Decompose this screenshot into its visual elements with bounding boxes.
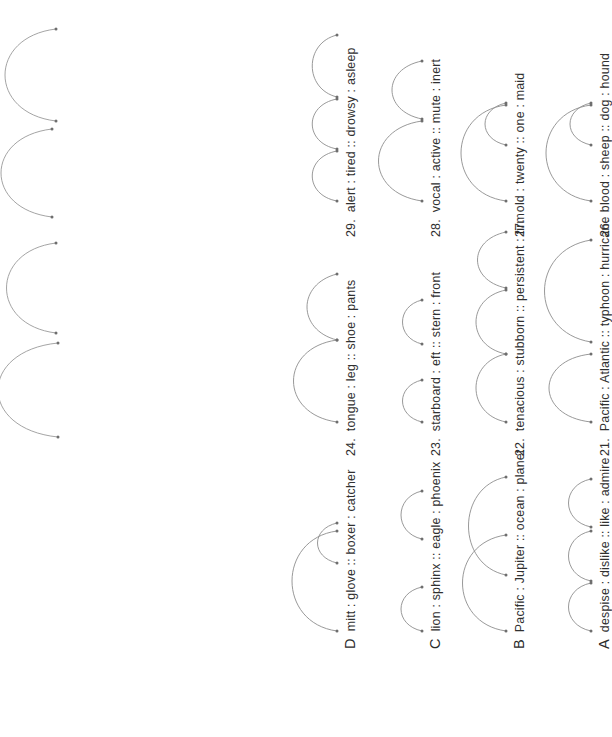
analogy-arcs-22 — [460, 176, 514, 426]
analogy-label-24: 24. — [344, 438, 358, 456]
analogy-text-D: mitt : glove :: boxer : catcher — [344, 469, 358, 631]
analogy-line-27: 27.old : twenty :: one : maid — [513, 73, 527, 237]
analogy-line-28: 28.vocal : active :: mute : inert — [429, 59, 443, 237]
analogy-label-23: 23. — [429, 438, 443, 456]
analogy-arcs-24 — [271, 176, 345, 426]
analogy-label-28: 28. — [429, 219, 443, 237]
analogy-line-24: 24.tongue : leg :: shoe : pants — [344, 280, 358, 456]
analogy-line-26: 26.blood : sheep :: dog : hound — [598, 53, 612, 237]
analogy-text-21: Pacific : Atlantic :: typhoon : hurrican… — [598, 216, 612, 431]
analogy-line-A: Adespise : dislike :: like : admire — [596, 457, 612, 649]
analogy-text-29: alert : tired :: drowsy : asleep — [344, 47, 358, 212]
analogy-text-23: starboard : eft :: stern : front — [429, 272, 443, 431]
analogy-arcs-21 — [525, 176, 599, 426]
analogy-text-27: old : twenty :: one : maid — [513, 73, 527, 213]
analogy-arcs-28 — [356, 0, 430, 205]
analogy-label-27: 27. — [513, 219, 527, 237]
analogy-arcs-29 — [296, 0, 345, 205]
analogy-line-22: 22.tenacious : stubborn :: persistent : … — [513, 213, 527, 456]
analogy-arcs-27 — [440, 0, 514, 205]
analogy-label-C: C — [427, 638, 443, 649]
analogy-label-B: B — [511, 639, 527, 649]
analogy-label-21: 21. — [598, 438, 612, 456]
analogy-label-26: 26. — [598, 219, 612, 237]
analogy-label-D: D — [342, 638, 358, 649]
analogy-line-21: 21.Pacific : Atlantic :: typhoon : hurri… — [598, 216, 612, 456]
analogy-line-B: BPacific : Jupiter :: ocean : planet — [511, 449, 527, 649]
analogy-text-B: Pacific : Jupiter :: ocean : planet — [513, 449, 527, 632]
analogy-arcs-C — [386, 405, 430, 635]
analogy-arcs-23 — [386, 176, 430, 426]
analogy-line-23: 23.starboard : eft :: stern : front — [429, 272, 443, 456]
analogy-line-D: Dmitt : glove :: boxer : catcher — [342, 469, 358, 649]
analogy-text-22: tenacious : stubborn :: persistent : fir… — [513, 213, 527, 431]
clipped-edge-arcs — [0, 0, 64, 737]
analogy-label-29: 29. — [344, 219, 358, 237]
analogy-text-24: tongue : leg :: shoe : pants — [344, 280, 358, 432]
analogy-line-29: 29.alert : tired :: drowsy : asleep — [344, 47, 358, 237]
analogy-arcs-D — [271, 405, 345, 635]
analogy-text-28: vocal : active :: mute : inert — [429, 59, 443, 212]
analogy-text-26: blood : sheep :: dog : hound — [598, 53, 612, 212]
analogy-arcs-26 — [525, 0, 599, 205]
analogy-text-C: lion : sphinx :: eagle : phoenix — [429, 462, 443, 632]
analogy-label-22: 22. — [513, 438, 527, 456]
analogy-line-C: Clion : sphinx :: eagle : phoenix — [427, 462, 443, 649]
analogy-text-A: despise : dislike :: like : admire — [598, 457, 612, 632]
analogy-arcs-B — [440, 405, 514, 635]
analogy-label-A: A — [596, 639, 612, 649]
analogy-arcs-A — [555, 405, 599, 635]
